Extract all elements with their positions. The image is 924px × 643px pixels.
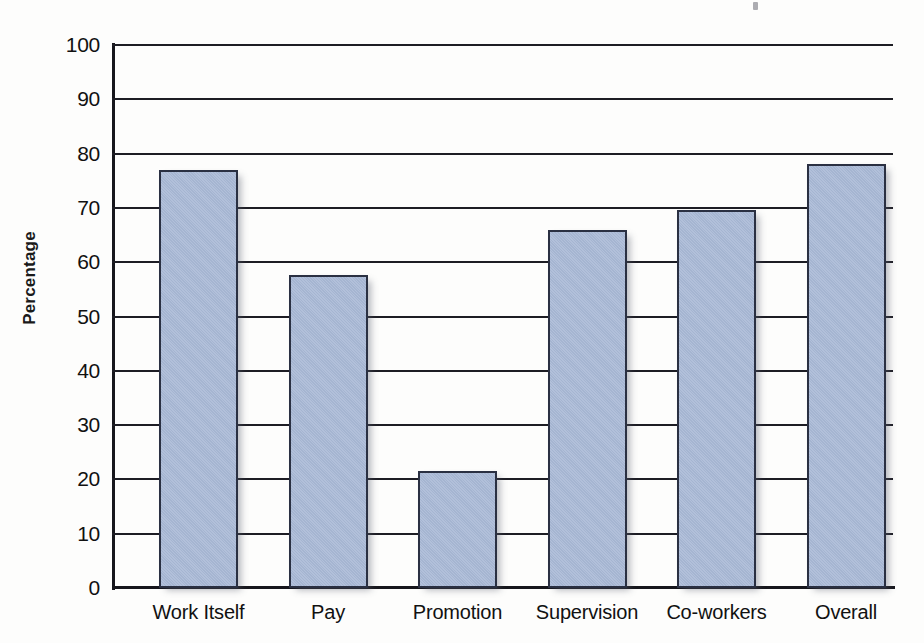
y-tick-label-50: 50	[77, 305, 100, 329]
x-category-label-pay: Pay	[311, 601, 345, 624]
bar-supervision[interactable]	[548, 230, 627, 588]
y-tick-label-30: 30	[77, 413, 100, 437]
scan-artifact-speck	[753, 2, 758, 10]
x-category-label-work-itself: Work Itself	[153, 601, 245, 624]
bar-pay[interactable]	[289, 275, 368, 588]
y-tick-label-90: 90	[77, 87, 100, 111]
y-axis-title: Percentage	[20, 218, 40, 338]
x-category-label-supervision: Supervision	[536, 601, 638, 624]
gridline-100	[112, 44, 893, 46]
y-tick-label-70: 70	[77, 196, 100, 220]
bar-overall[interactable]	[807, 164, 886, 588]
x-category-label-co-workers: Co-workers	[666, 601, 766, 624]
gridline-90	[112, 98, 893, 100]
bar-work-itself[interactable]	[159, 170, 238, 588]
bar-promotion[interactable]	[418, 471, 497, 588]
y-tick-label-0: 0	[89, 576, 100, 600]
x-category-label-promotion: Promotion	[413, 601, 502, 624]
plot-area: 1009080706050403020100 Work ItselfPayPro…	[112, 45, 893, 588]
y-tick-label-100: 100	[66, 33, 100, 57]
y-tick-label-10: 10	[77, 522, 100, 546]
y-tick-label-80: 80	[77, 142, 100, 166]
y-tick-label-60: 60	[77, 250, 100, 274]
y-tick-label-20: 20	[77, 467, 100, 491]
bar-co-workers[interactable]	[677, 210, 756, 588]
x-category-label-overall: Overall	[815, 601, 877, 624]
bar-chart-figure: Percentage 1009080706050403020100 Work I…	[0, 0, 924, 643]
y-tick-label-40: 40	[77, 359, 100, 383]
gridline-80	[112, 153, 893, 155]
